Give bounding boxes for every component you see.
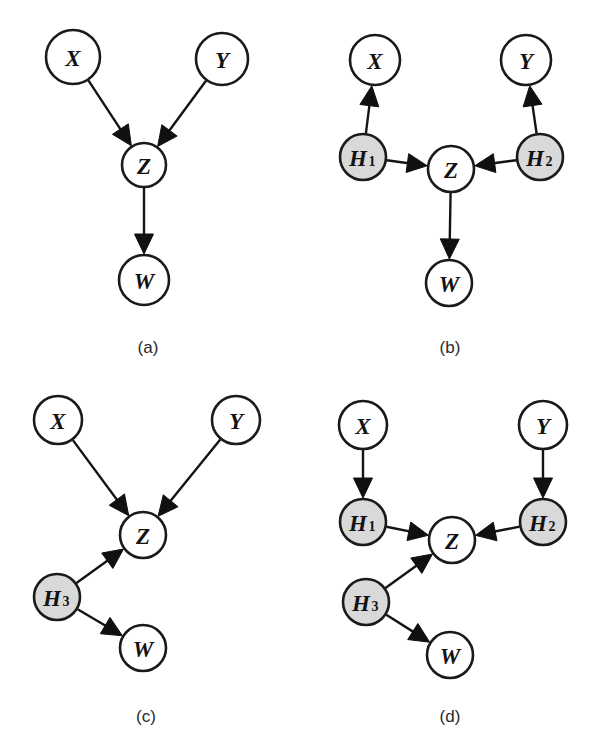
node-label: Y <box>229 409 245 434</box>
edge-H2-to-Y <box>523 86 542 134</box>
edge-H1-to-Z <box>387 522 429 541</box>
node-H1: H1 <box>340 134 386 180</box>
node-layer: XYZW <box>46 30 248 305</box>
node-label: Z <box>135 524 150 549</box>
edge-Y-to-Z <box>158 439 220 516</box>
node-X: X <box>339 401 387 449</box>
panel-a: XYZW(a) <box>46 30 248 357</box>
edge-H3-to-W <box>78 609 123 636</box>
node-W: W <box>119 255 169 305</box>
causal-dag-figure: XYZW(a)XYH1ZH2W(b)XYZH3W(c)XYH1ZH2H3W(d) <box>0 0 593 753</box>
node-H2: H2 <box>517 134 563 180</box>
arrowhead-icon <box>534 478 553 498</box>
arrowhead-icon <box>112 124 131 146</box>
node-label: W <box>133 637 155 662</box>
node-Y: Y <box>212 396 260 444</box>
edge-H3-to-Z <box>385 554 432 588</box>
arrowhead-icon <box>407 522 428 541</box>
node-label-subscript: 1 <box>369 154 376 169</box>
panel-caption-b: (b) <box>440 338 461 357</box>
node-label: X <box>64 46 81 71</box>
edge-Z-to-W <box>440 193 459 259</box>
node-label: H <box>348 146 368 171</box>
arrowhead-icon <box>135 234 154 254</box>
node-H3: H3 <box>34 574 80 620</box>
node-X: X <box>46 30 100 84</box>
node-W: W <box>426 260 472 306</box>
panel-b: XYH1ZH2W(b) <box>340 35 563 357</box>
node-label: X <box>354 414 371 439</box>
node-Y: Y <box>196 33 248 85</box>
panel-c: XYZH3W(c) <box>34 396 260 726</box>
edge-X-to-Z <box>73 440 129 516</box>
node-label-subscript: 1 <box>369 519 376 534</box>
edge-H2-to-Z <box>475 154 516 173</box>
node-Z: Z <box>428 146 474 192</box>
node-label: X <box>366 49 383 74</box>
arrowhead-icon <box>411 554 433 573</box>
edge-H1-to-X <box>360 86 379 133</box>
arrowhead-icon <box>100 617 122 635</box>
node-W: W <box>120 625 166 671</box>
arrowhead-icon <box>408 623 430 642</box>
edge-H1-to-Z <box>387 154 427 173</box>
node-W: W <box>427 632 473 678</box>
edge-X-to-H1 <box>354 450 373 498</box>
node-H3: H3 <box>343 579 389 625</box>
node-label: Z <box>444 529 459 554</box>
node-label-subscript: 2 <box>546 154 553 169</box>
node-label-subscript: 3 <box>372 599 379 614</box>
node-Z: Z <box>122 143 166 187</box>
node-Y: Y <box>519 401 567 449</box>
node-label: X <box>49 409 66 434</box>
node-Z: Z <box>429 517 475 563</box>
node-label: H <box>42 586 62 611</box>
node-H2: H2 <box>520 499 566 545</box>
arrowhead-icon <box>102 549 124 568</box>
arrowhead-icon <box>476 522 497 541</box>
node-Y: Y <box>501 35 551 85</box>
arrowhead-icon <box>354 478 373 498</box>
edge-H3-to-W <box>386 615 429 642</box>
edge-Y-to-H2 <box>534 450 553 498</box>
node-label: W <box>134 269 156 294</box>
panel-d: XYH1ZH2H3W(d) <box>339 401 567 726</box>
arrowhead-icon <box>475 154 496 173</box>
edge-H3-to-Z <box>76 549 123 583</box>
arrowhead-icon <box>109 494 129 516</box>
panel-caption-a: (a) <box>138 338 159 357</box>
node-label-subscript: 2 <box>549 519 556 534</box>
arrowhead-icon <box>523 86 542 107</box>
edge-Y-to-Z <box>158 81 206 147</box>
panel-caption-c: (c) <box>136 707 156 726</box>
node-layer: XYH1ZH2W <box>340 35 563 306</box>
edge-Z-to-W <box>135 188 154 254</box>
node-layer: XYZH3W <box>34 396 260 671</box>
node-X: X <box>34 396 82 444</box>
node-label-subscript: 3 <box>63 594 70 609</box>
panel-caption-d: (d) <box>440 707 461 726</box>
arrowhead-icon <box>406 154 427 173</box>
edge-H2-to-Z <box>476 522 520 541</box>
node-layer: XYH1ZH2H3W <box>339 401 567 678</box>
node-label: Y <box>536 414 552 439</box>
node-label: W <box>439 272 461 297</box>
arrowhead-icon <box>158 125 178 147</box>
arrowhead-icon <box>158 495 178 517</box>
node-label: H <box>348 511 368 536</box>
node-label: H <box>525 146 545 171</box>
node-label: Y <box>215 48 231 73</box>
node-H1: H1 <box>340 499 386 545</box>
node-X: X <box>350 35 400 85</box>
node-label: Y <box>519 49 535 74</box>
node-label: Z <box>443 158 458 183</box>
figure-canvas: XYZW(a)XYH1ZH2W(b)XYZH3W(c)XYH1ZH2H3W(d) <box>0 0 593 753</box>
node-label: Z <box>136 154 151 179</box>
arrowhead-icon <box>360 86 379 107</box>
node-label: H <box>351 591 371 616</box>
node-label: H <box>528 511 548 536</box>
node-Z: Z <box>120 512 166 558</box>
edge-X-to-Z <box>88 80 131 145</box>
node-label: W <box>440 644 462 669</box>
arrowhead-icon <box>440 239 459 259</box>
